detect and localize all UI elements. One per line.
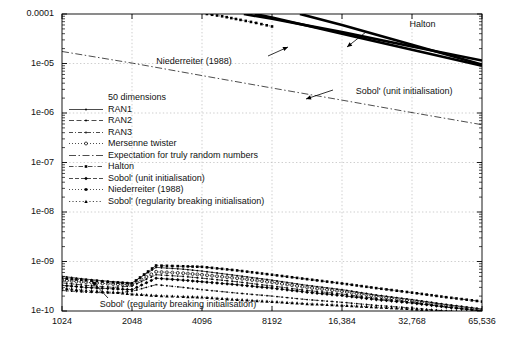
data-point-marker — [116, 287, 120, 291]
data-point-marker — [85, 188, 88, 191]
data-point-marker — [400, 290, 403, 293]
data-point-marker — [296, 277, 299, 280]
data-point-marker — [251, 283, 253, 285]
data-point-marker — [256, 283, 258, 285]
data-point-marker — [460, 298, 463, 301]
annotation-label: Sobol' (regularity breaking initialisati… — [100, 299, 256, 309]
legend-item-halton[interactable]: Halton — [68, 161, 298, 173]
data-point-marker — [192, 276, 194, 278]
y-axis-tick-label: 1e-06 — [0, 107, 54, 117]
data-point-marker — [155, 264, 158, 267]
data-point-marker — [201, 277, 203, 279]
data-point-marker — [236, 275, 238, 277]
data-point-marker — [330, 293, 334, 297]
data-point-marker — [466, 311, 468, 313]
data-point-marker — [356, 303, 358, 305]
data-point-marker — [276, 282, 279, 285]
data-point-marker — [246, 276, 248, 278]
data-point-marker — [455, 297, 458, 300]
data-point-marker — [70, 284, 74, 288]
data-point-marker — [171, 268, 173, 270]
data-point-marker — [239, 19, 242, 22]
data-point-marker — [181, 278, 185, 282]
legend-item-niederreiter-1988[interactable]: Niederreiter (1988) — [68, 184, 298, 196]
data-point-marker — [135, 286, 139, 290]
data-point-marker — [140, 283, 144, 287]
data-point-marker — [246, 270, 249, 273]
data-point-marker — [245, 284, 249, 288]
y-axis-tick-label: 1e-08 — [0, 206, 54, 216]
legend-item-label: RAN3 — [104, 127, 132, 138]
data-point-marker — [271, 295, 273, 297]
data-point-marker — [336, 282, 339, 285]
data-point-marker — [160, 264, 163, 267]
data-point-marker — [211, 271, 213, 273]
legend-item-expectation-for-truly-random-numbers[interactable]: Expectation for truly random numbers — [68, 150, 298, 162]
data-point-marker — [221, 279, 223, 281]
data-point-marker — [121, 287, 125, 291]
data-point-marker — [191, 265, 194, 268]
data-point-marker — [221, 15, 224, 18]
data-point-marker — [375, 287, 378, 290]
chart-legend: 50 dimensions RAN1RAN2RAN3Mersenne twist… — [68, 92, 298, 207]
data-point-marker — [315, 302, 318, 305]
y-axis-tick-label: 1e-09 — [0, 256, 54, 266]
legend-item-label: RAN1 — [104, 104, 132, 115]
annotation-label: Sobol' (unit initialisation) — [356, 86, 453, 96]
data-point-marker — [425, 293, 428, 296]
data-point-marker — [75, 278, 78, 281]
data-point-marker — [291, 276, 294, 279]
data-point-marker — [300, 290, 304, 294]
series-sobol-unit-initialisation — [300, 14, 482, 65]
data-point-marker — [256, 272, 259, 275]
legend-item-ran2[interactable]: RAN2 — [68, 115, 298, 127]
data-point-marker — [201, 270, 203, 272]
data-point-marker — [360, 305, 363, 308]
legend-item-ran1[interactable]: RAN1 — [68, 104, 298, 116]
legend-item-sobol-unit-initialisation[interactable]: Sobol' (unit initialisation) — [68, 173, 298, 185]
legend-line-sample — [68, 161, 104, 172]
data-point-marker — [295, 289, 299, 293]
data-point-marker — [341, 282, 344, 285]
data-point-marker — [150, 276, 152, 278]
data-point-marker — [241, 270, 244, 273]
data-point-marker — [346, 302, 348, 304]
data-point-marker — [280, 287, 284, 291]
legend-item-ran3[interactable]: RAN3 — [68, 127, 298, 139]
data-point-marker — [351, 302, 353, 304]
data-point-marker — [246, 282, 248, 284]
x-axis-tick-label: 2048 — [102, 316, 162, 326]
data-point-marker — [346, 283, 349, 286]
data-point-marker — [84, 286, 88, 290]
data-point-marker — [95, 289, 98, 292]
data-point-marker — [85, 279, 88, 282]
data-point-marker — [476, 300, 479, 303]
legend-item-mersenne-twister[interactable]: Mersenne twister — [68, 138, 298, 150]
data-point-marker — [75, 285, 79, 289]
data-point-marker — [161, 274, 163, 276]
data-point-marker — [216, 272, 218, 274]
data-point-marker — [291, 297, 293, 299]
data-point-marker — [270, 286, 274, 290]
data-point-marker — [130, 288, 134, 292]
data-point-marker — [370, 305, 373, 308]
data-point-marker — [395, 289, 398, 292]
data-point-marker — [335, 303, 338, 306]
data-point-marker — [111, 290, 114, 293]
x-axis-tick-label: 8192 — [242, 316, 302, 326]
data-point-marker — [201, 266, 204, 269]
data-point-marker — [231, 292, 233, 294]
data-point-marker — [306, 299, 308, 301]
data-point-marker — [65, 284, 69, 288]
legend-item-sobol-regularity-breaking-initialisation[interactable]: Sobol' (regularity breaking initialisati… — [68, 196, 298, 208]
data-point-marker — [187, 265, 190, 268]
data-point-marker — [226, 268, 229, 271]
data-point-marker — [266, 273, 269, 276]
data-point-marker — [112, 281, 115, 284]
annotation-arrowhead — [306, 95, 311, 99]
legend-line-sample — [68, 173, 104, 184]
data-point-marker — [476, 312, 478, 314]
data-point-marker — [187, 276, 189, 278]
data-point-marker — [166, 267, 168, 269]
data-point-marker — [440, 295, 443, 298]
